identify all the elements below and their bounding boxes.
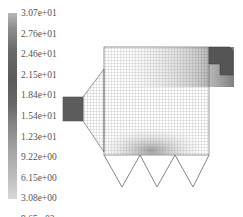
vector-plot <box>0 0 243 217</box>
inlet-duct <box>63 97 83 121</box>
lower-flow-shade <box>104 110 209 155</box>
hopper-outline <box>104 155 209 187</box>
inlet-transition <box>83 69 104 152</box>
